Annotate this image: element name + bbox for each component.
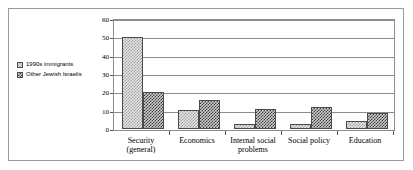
bar: [367, 113, 388, 129]
plot-area: [113, 19, 395, 131]
y-tick-mark: [110, 38, 113, 39]
y-tick-label: 50: [102, 34, 109, 42]
chart-figure: 1990s immigrants Other Jewish Israelis 0…: [8, 8, 404, 161]
x-axis: Security (general)EconomicsInternal soci…: [113, 131, 395, 161]
x-tick-mark: [337, 131, 338, 135]
y-tick-label: 30: [102, 71, 109, 79]
x-tick-mark: [225, 131, 226, 135]
y-tick-mark: [110, 112, 113, 113]
legend-label: Other Jewish Israelis: [26, 71, 82, 78]
x-category-label: Internal social problems: [225, 136, 281, 154]
bar: [234, 124, 255, 130]
x-tick-mark: [393, 131, 394, 135]
legend-label: 1990s immigrants: [26, 61, 73, 68]
x-category-label: Education: [337, 136, 393, 145]
y-tick-mark: [110, 75, 113, 76]
plot-wrapper: 0102030405060: [113, 19, 395, 131]
y-tick-label: 10: [102, 108, 109, 116]
y-tick-label: 60: [102, 16, 109, 24]
bar: [290, 124, 311, 129]
bar: [311, 107, 332, 129]
bar: [255, 109, 276, 129]
bars-layer: [115, 21, 393, 129]
bar: [346, 121, 367, 129]
x-category-label: Economics: [169, 136, 225, 145]
legend-item: 1990s immigrants: [17, 61, 109, 68]
legend-swatch-icon: [17, 62, 23, 68]
x-category-label: Social policy: [281, 136, 337, 145]
bar: [143, 92, 164, 129]
y-tick-label: 0: [106, 126, 110, 134]
bar: [178, 110, 199, 129]
bar: [122, 37, 143, 129]
y-tick-label: 40: [102, 53, 109, 61]
chart-legend: 1990s immigrants Other Jewish Israelis: [17, 61, 109, 81]
legend-swatch-icon: [17, 72, 23, 78]
y-tick-mark: [110, 57, 113, 58]
legend-item: Other Jewish Israelis: [17, 71, 109, 78]
bar: [199, 100, 220, 129]
y-tick-label: 20: [102, 89, 109, 97]
x-category-label: Security (general): [113, 136, 169, 154]
y-tick-mark: [110, 93, 113, 94]
x-tick-mark: [281, 131, 282, 135]
y-tick-mark: [110, 20, 113, 21]
x-tick-mark: [169, 131, 170, 135]
